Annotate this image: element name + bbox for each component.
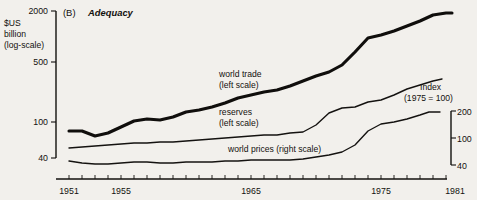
right-axis-ticklabel-200: 200	[457, 107, 472, 117]
left-axis-label-line2: billion	[4, 29, 26, 39]
left-axis-ticklabel-100: 100	[33, 117, 48, 127]
left-axis-label-line3: (log-scale)	[4, 40, 44, 50]
left-axis-label-line1: $US	[4, 18, 21, 28]
series-label-world-trade-line2: (left scale)	[219, 80, 259, 90]
chart-svg: (B) Adequacy $US billion (log-scale) 200…	[0, 0, 477, 200]
series-label-reserves-line2: (left scale)	[219, 118, 259, 128]
right-axis-ticklabel-40: 40	[457, 161, 467, 171]
left-axis-ticklabel-40: 40	[38, 153, 48, 163]
right-axis-label-line2: (1975 = 100)	[404, 93, 453, 103]
right-axis-ticklabel-100: 100	[457, 134, 472, 144]
left-axis-ticklabel-500: 500	[33, 57, 48, 67]
series-label-world-prices: world prices (right scale)	[227, 144, 321, 154]
panel-title: Adequacy	[87, 7, 134, 18]
left-axis-ticklabel-2000: 2000	[28, 6, 48, 16]
series-label-reserves-line1: reserves	[219, 107, 252, 117]
x-axis-ticklabel-1951: 1951	[59, 186, 79, 196]
chart-figure: (B) Adequacy $US billion (log-scale) 200…	[0, 0, 477, 200]
x-axis-ticklabel-1965: 1965	[241, 186, 261, 196]
panel-letter: (B)	[63, 7, 76, 18]
x-axis-ticklabel-1955: 1955	[111, 186, 131, 196]
x-axis-ticklabel-1975: 1975	[371, 186, 391, 196]
series-label-world-trade-line1: world trade	[218, 69, 262, 79]
x-axis-ticklabel-1981: 1981	[445, 186, 465, 196]
